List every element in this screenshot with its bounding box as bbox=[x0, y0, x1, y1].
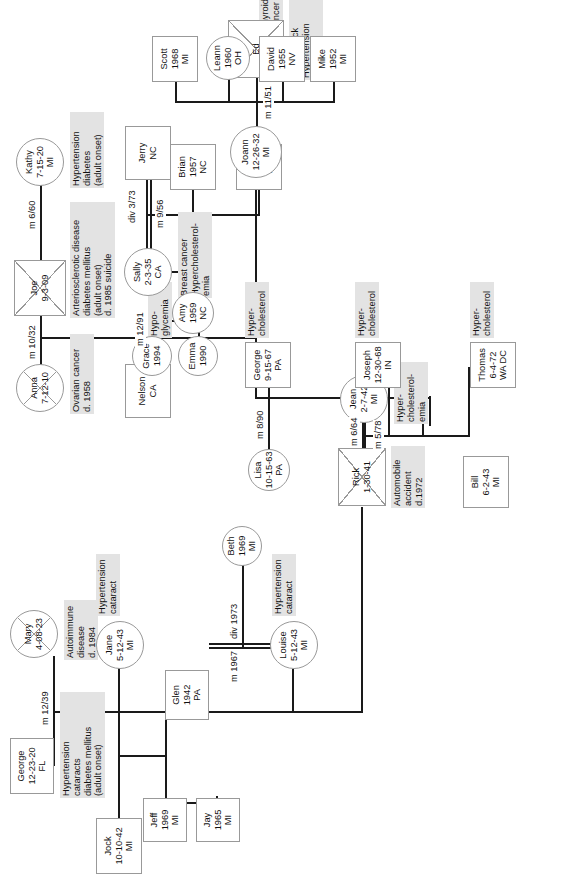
person-name: Beth bbox=[226, 536, 237, 555]
union-label-joe-kathy: m 6/60 bbox=[27, 200, 38, 230]
note-louise: Hypertension cataract bbox=[272, 554, 296, 616]
genogram-canvas: George 12-23-20 FL Hypertension cataract… bbox=[0, 0, 581, 884]
person-place: MI bbox=[369, 394, 380, 404]
person-node-jerry[interactable]: Jerry NC bbox=[125, 126, 171, 180]
union-line-joe-anna bbox=[40, 314, 42, 366]
person-node-kathy[interactable]: Kathy 7-15-20 MI bbox=[16, 138, 64, 186]
person-node-mike[interactable]: Mike 1952 MI bbox=[310, 36, 356, 82]
union-label-sally-jerry-m: m 9/56 bbox=[155, 199, 166, 229]
person-name: Jerry bbox=[137, 143, 148, 164]
person-node-bill[interactable]: Bill 6-2-43 MI bbox=[463, 456, 509, 508]
person-name: Nelson bbox=[137, 377, 148, 406]
person-node-emma[interactable]: Emma 1990 bbox=[178, 336, 218, 376]
person-place: NV bbox=[287, 53, 298, 66]
person-name: Anna bbox=[29, 377, 40, 399]
person-node-thomas[interactable]: Thomas 6-4-72 WA DC bbox=[470, 342, 516, 388]
person-node-joe[interactable]: Joe 9-3-09 bbox=[14, 260, 66, 316]
union-label-georgejr-lisa: m 8/90 bbox=[255, 410, 266, 440]
person-node-brian[interactable]: Brian 1957 NC bbox=[170, 144, 216, 190]
person-place: OH bbox=[233, 51, 244, 65]
union-label-joe-anna: m 10/32 bbox=[27, 324, 38, 360]
person-dob: 1-30-41 bbox=[362, 461, 373, 493]
person-name: Louise bbox=[278, 631, 289, 658]
person-name: Bill bbox=[470, 476, 481, 488]
person-dob: 1969 bbox=[160, 810, 171, 831]
person-name: Joe bbox=[29, 281, 40, 296]
person-dob: 7-12-10 bbox=[40, 372, 51, 404]
note-sally: Breast cancer Hypercholesterol- emia bbox=[178, 212, 212, 298]
person-name: Scott bbox=[159, 48, 170, 69]
person-name: Emma bbox=[187, 343, 198, 370]
person-node-joseph[interactable]: Joseph 12-30-68 IN bbox=[355, 342, 401, 388]
union-label-joann-ed: m 11/51 bbox=[263, 85, 274, 120]
person-place: MI bbox=[491, 477, 502, 487]
person-place: MI bbox=[125, 640, 136, 650]
person-node-lisa[interactable]: Lisa 10-15-63 PA bbox=[248, 449, 290, 491]
person-node-rick[interactable]: Rick 1-30-41 bbox=[338, 448, 386, 506]
person-node-jock[interactable]: Jock 10-10-42 MI bbox=[96, 818, 142, 874]
person-dob: 7-15-20 bbox=[35, 146, 46, 178]
person-node-joann[interactable]: Joann 12-26-32 MI bbox=[230, 126, 282, 178]
person-node-beth[interactable]: Beth 1969 MI bbox=[222, 526, 262, 566]
person-name: Joseph bbox=[362, 350, 373, 380]
person-node-david[interactable]: David 1955 NV bbox=[259, 36, 305, 82]
sibship-rail-vert-joann-ed bbox=[175, 101, 335, 103]
person-dob: 4-08-23 bbox=[34, 618, 45, 650]
person-node-mary[interactable]: Mary 4-08-23 bbox=[10, 610, 58, 658]
person-dob: 1960 bbox=[223, 48, 234, 69]
person-node-amy[interactable]: Amy 1959 NC bbox=[172, 292, 214, 334]
person-node-george-sr[interactable]: George 12-23-20 FL bbox=[10, 738, 54, 794]
person-place: MI bbox=[261, 147, 272, 157]
note-thomas: Hyper- cholesterol bbox=[470, 282, 494, 338]
person-dob: 1955 bbox=[277, 49, 288, 70]
person-name: Jock bbox=[103, 836, 114, 855]
person-node-glen[interactable]: Glen 1942 PA bbox=[165, 670, 209, 720]
person-dob: 2-7-42 bbox=[359, 386, 370, 413]
person-name: Rick bbox=[351, 468, 362, 486]
person-node-jane[interactable]: Jane 5-12-43 MI bbox=[96, 621, 144, 669]
person-place: MI bbox=[247, 541, 258, 551]
sibship-branch-rick bbox=[361, 507, 363, 713]
child-line-david bbox=[282, 79, 284, 103]
person-name: David bbox=[266, 47, 277, 71]
person-node-scott[interactable]: Scott 1968 MI bbox=[152, 36, 198, 82]
person-node-leann[interactable]: Leann 1960 OH bbox=[206, 36, 250, 80]
union-vert-glen-louise bbox=[209, 647, 271, 649]
person-place: MI bbox=[180, 54, 191, 64]
person-place: IN bbox=[383, 360, 394, 369]
union-label-george-mary: m 12/39 bbox=[40, 690, 51, 726]
person-name: Jay bbox=[202, 813, 213, 827]
person-place: CA bbox=[153, 266, 164, 279]
person-dob: 12-26-32 bbox=[251, 133, 262, 170]
person-dob: 12-30-68 bbox=[373, 346, 384, 383]
note-kathy: Hypertension diabetes (adult onset) bbox=[70, 112, 104, 188]
person-dob: 1959 bbox=[188, 303, 199, 324]
person-place: MI bbox=[170, 815, 181, 825]
person-name: Thomas bbox=[477, 348, 488, 382]
person-dob: 1952 bbox=[328, 49, 339, 70]
person-dob: 1942 bbox=[182, 685, 193, 706]
person-dob: 5-12-43 bbox=[115, 629, 126, 661]
person-dob: 12-23-20 bbox=[27, 747, 38, 784]
person-name: Brian bbox=[177, 156, 188, 178]
person-node-jay[interactable]: Jay 1965 MI bbox=[196, 798, 240, 842]
person-place: PA bbox=[274, 464, 285, 476]
person-name: Kathy bbox=[24, 150, 35, 174]
person-name: Sally bbox=[132, 262, 143, 282]
person-node-jeff[interactable]: Jeff 1969 MI bbox=[143, 798, 187, 842]
person-dob: 5-12-43 bbox=[289, 629, 300, 661]
person-dob: 9-15-67 bbox=[263, 349, 274, 381]
person-node-sally[interactable]: Sally 2-3-35 CA bbox=[124, 248, 172, 296]
note-joe: Arteriosclerotic disease diabetes mellit… bbox=[70, 202, 115, 318]
person-place: FL bbox=[37, 761, 48, 772]
person-place: PA bbox=[273, 359, 284, 371]
person-name: Grace bbox=[141, 343, 152, 368]
note-mary: Autoimmune disease d. 1984 bbox=[64, 600, 98, 660]
person-dob: 6-4-72 bbox=[488, 352, 499, 379]
person-node-louise[interactable]: Louise 5-12-43 MI bbox=[270, 621, 318, 669]
person-name: Leann bbox=[212, 45, 223, 71]
person-node-george-jr[interactable]: George 9-15-67 PA bbox=[245, 342, 291, 388]
union-vert2-glen-louise bbox=[209, 643, 271, 645]
person-name: Jean bbox=[348, 389, 359, 409]
person-node-anna[interactable]: Anna 7-12-10 bbox=[16, 364, 64, 412]
